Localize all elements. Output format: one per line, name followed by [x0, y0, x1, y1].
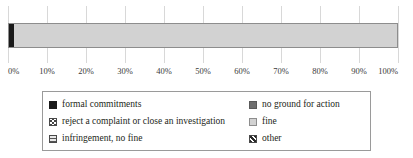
legend-item-label: reject a complaint or close an investiga… — [62, 116, 225, 127]
x-tick-label-50%: 50% — [195, 66, 211, 76]
legend-grid: formal commitmentsno ground for actionre… — [49, 96, 364, 147]
legend-item-label: fine — [262, 116, 277, 127]
plot-area — [8, 6, 398, 63]
legend-swatch-crosshatch-icon — [49, 118, 57, 126]
legend-swatch-diagonal-lines-icon — [249, 135, 257, 143]
chart-legend: formal commitmentsno ground for actionre… — [42, 91, 371, 151]
legend-item[interactable]: fine — [249, 116, 364, 127]
x-tick-label-70%: 70% — [273, 66, 289, 76]
x-tick-label-10%: 10% — [39, 66, 55, 76]
legend-item-label: infringement, no fine — [62, 133, 142, 144]
legend-swatch-solid-black-icon — [49, 101, 57, 109]
x-tick-label-40%: 40% — [156, 66, 172, 76]
x-tick-label-90%: 90% — [351, 66, 367, 76]
legend-item[interactable]: reject a complaint or close an investiga… — [49, 116, 249, 127]
legend-item[interactable]: no ground for action — [249, 99, 364, 110]
x-tick-label-30%: 30% — [117, 66, 133, 76]
x-tick-label-20%: 20% — [78, 66, 94, 76]
stacked-bar-chart: 0%10%20%30%40%50%60%70%80%90%100% — [0, 0, 413, 88]
bar-segment-fine[interactable] — [14, 24, 397, 47]
legend-swatch-horizontal-lines-icon — [49, 135, 57, 143]
x-tick-label-100%: 100% — [378, 66, 398, 76]
legend-item-label: no ground for action — [262, 99, 340, 110]
legend-item[interactable]: infringement, no fine — [49, 133, 249, 144]
x-tick-label-60%: 60% — [234, 66, 250, 76]
legend-swatch-solid-lightgray-icon — [249, 118, 257, 126]
x-axis-tick-labels: 0%10%20%30%40%50%60%70%80%90%100% — [0, 66, 413, 82]
legend-swatch-solid-darkgray-icon — [249, 101, 257, 109]
legend-item[interactable]: formal commitments — [49, 99, 249, 110]
legend-item-label: other — [262, 133, 282, 144]
legend-item-label: formal commitments — [62, 99, 141, 110]
stacked-bar[interactable] — [8, 23, 398, 48]
x-tick-label-80%: 80% — [312, 66, 328, 76]
gridline-100% — [398, 6, 399, 63]
x-tick-label-0%: 0% — [8, 66, 19, 76]
legend-item[interactable]: other — [249, 133, 364, 144]
